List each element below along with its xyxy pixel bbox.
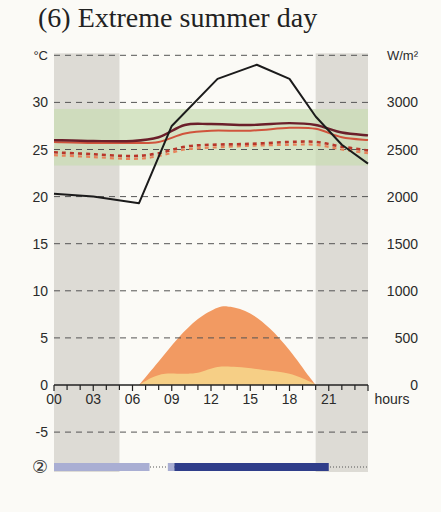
y-left-tick-label: 15 [32,236,48,252]
y-right-tick-label: 1500 [387,236,418,252]
schedule-segment-active [174,463,328,471]
y-right-tick-label: 0 [410,377,418,393]
comfort-band [54,109,368,166]
y-left-tick-label: -5 [36,424,49,440]
y-right-tick-label: 500 [395,330,419,346]
y-right-tick-label: 2500 [387,142,418,158]
y-left-tick-label: 0 [40,377,48,393]
comfort-band-rect [54,109,368,166]
x-tick-label: 06 [125,391,141,407]
y-left-unit: °C [33,48,48,63]
x-axis-label: hours [374,391,409,407]
chart: 0003060912151821hours -5051015202530°C 0… [0,0,441,512]
schedule-label-circled-two: ② [32,456,48,477]
x-tick-label: 03 [85,391,101,407]
y-axis-right: 050010001500200025003000W/m² [387,48,419,393]
irradiance-areas [139,306,316,385]
y-right-tick-label: 3000 [387,94,418,110]
x-tick-label: 15 [242,391,258,407]
y-left-tick-label: 25 [32,142,48,158]
x-tick-label: 18 [282,391,298,407]
x-tick-label: 00 [46,391,62,407]
y-left-tick-label: 5 [40,330,48,346]
schedule-segment-partial [54,463,150,471]
y-left-tick-label: 20 [32,189,48,205]
y-right-unit: W/m² [387,48,419,63]
x-tick-label: 09 [164,391,180,407]
y-axis-left: -5051015202530°C [32,48,48,440]
x-tick-label: 12 [203,391,219,407]
y-right-tick-label: 1000 [387,283,418,299]
y-right-tick-label: 2000 [387,189,418,205]
schedule-segment-partial [168,463,175,471]
x-tick-label: 21 [321,391,337,407]
y-left-tick-label: 10 [32,283,48,299]
y-left-tick-label: 30 [32,94,48,110]
